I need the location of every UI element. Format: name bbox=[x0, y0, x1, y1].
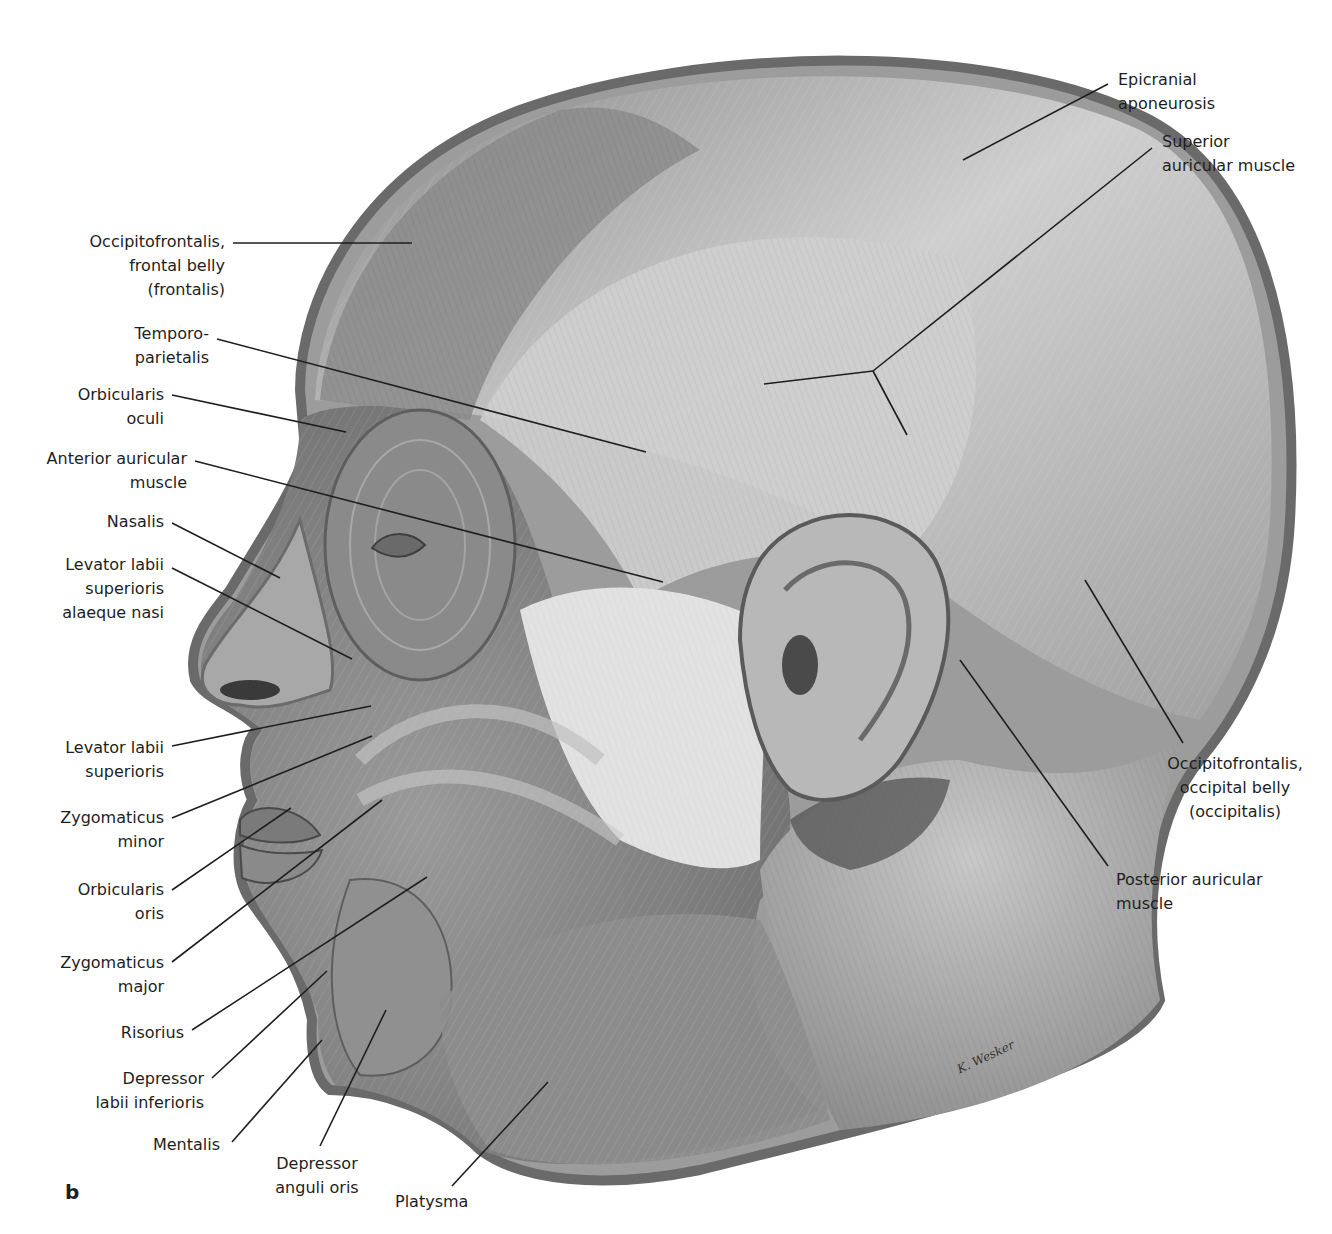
label-nasalis: Nasalis bbox=[107, 510, 164, 534]
label-levator-labii-superioris: Levator labii superioris bbox=[65, 736, 164, 784]
label-platysma: Platysma bbox=[395, 1190, 468, 1214]
label-depressor-anguli-oris: Depressor anguli oris bbox=[262, 1152, 372, 1200]
leader-mentalis bbox=[232, 1040, 322, 1142]
nostril bbox=[220, 680, 280, 700]
label-epicranial-aponeurosis: Epicranial aponeurosis bbox=[1118, 68, 1215, 116]
ear-canal bbox=[782, 635, 818, 695]
label-occipitofrontalis-frontal: Occipitofrontalis, frontal belly (fronta… bbox=[90, 230, 225, 302]
label-superior-auricular-muscle: Superior auricular muscle bbox=[1162, 130, 1295, 178]
head-illustration bbox=[0, 0, 1332, 1234]
label-depressor-labii-inferioris: Depressor labii inferioris bbox=[95, 1067, 204, 1115]
panel-letter: b bbox=[65, 1180, 79, 1204]
label-occipitofrontalis-occipital: Occipitofrontalis, occipital belly (occi… bbox=[1140, 752, 1330, 824]
label-anterior-auricular-muscle: Anterior auricular muscle bbox=[47, 447, 187, 495]
label-posterior-auricular-muscle: Posterior auricular muscle bbox=[1116, 868, 1263, 916]
label-zygomaticus-minor: Zygomaticus minor bbox=[60, 806, 164, 854]
anatomy-figure: Epicranial aponeurosis Superior auricula… bbox=[0, 0, 1332, 1234]
label-levator-labii-sup-alaeque-nasi: Levator labii superioris alaeque nasi bbox=[62, 553, 164, 625]
label-orbicularis-oris: Orbicularis oris bbox=[78, 878, 164, 926]
label-zygomaticus-major: Zygomaticus major bbox=[60, 951, 164, 999]
label-risorius: Risorius bbox=[121, 1021, 184, 1045]
label-temporoparietalis: Temporo- parietalis bbox=[134, 322, 209, 370]
label-mentalis: Mentalis bbox=[153, 1133, 220, 1157]
label-orbicularis-oculi: Orbicularis oculi bbox=[78, 383, 164, 431]
